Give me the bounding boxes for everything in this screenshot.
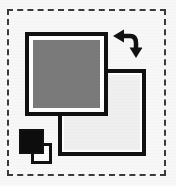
color-indicator-widget: [0, 0, 176, 186]
default-colors-button[interactable]: [19, 129, 53, 165]
swap-colors-button[interactable]: [110, 26, 142, 60]
default-foreground-swatch: [19, 129, 44, 154]
swap-arrows-icon: [110, 26, 142, 60]
foreground-color-swatch[interactable]: [25, 32, 108, 116]
